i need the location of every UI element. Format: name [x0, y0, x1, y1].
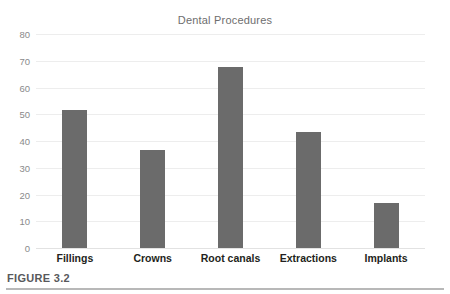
figure-container: Dental Procedures 80706050403020100 Fill… [0, 0, 450, 294]
x-tick-label-implants: Implants [340, 252, 432, 264]
bar-crowns [140, 150, 165, 248]
x-axis: FillingsCrownsRoot canalsExtractionsImpl… [36, 252, 425, 268]
figure-caption: FIGURE 3.2 [7, 272, 70, 284]
bar-extractions [296, 132, 321, 248]
bar-fillings [62, 110, 87, 248]
bar-root-canals [218, 67, 243, 248]
gridline-0 [36, 248, 425, 249]
y-axis: 80706050403020100 [0, 34, 30, 248]
bar-implants [374, 203, 399, 248]
y-tick-label-40: 40 [0, 136, 30, 147]
y-tick-label-20: 20 [0, 189, 30, 200]
y-tick-label-30: 30 [0, 162, 30, 173]
bar-chart: Dental Procedures 80706050403020100 Fill… [0, 0, 450, 272]
chart-title: Dental Procedures [0, 14, 450, 26]
caption-block: FIGURE 3.2 [0, 272, 450, 294]
y-tick-label-50: 50 [0, 109, 30, 120]
y-tick-label-10: 10 [0, 216, 30, 227]
y-tick-label-60: 60 [0, 82, 30, 93]
bars-layer [36, 34, 425, 248]
y-tick-label-70: 70 [0, 55, 30, 66]
y-tick-label-80: 80 [0, 29, 30, 40]
caption-divider [6, 288, 444, 290]
y-tick-label-0: 0 [0, 243, 30, 254]
